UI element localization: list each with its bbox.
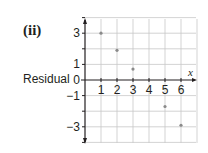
y-tick-label: 3: [73, 26, 80, 40]
data-point: [179, 124, 182, 127]
x-tick-label: 5: [162, 83, 169, 97]
x-axis-label: x: [187, 66, 193, 78]
x-tick-label: 4: [146, 83, 153, 97]
x-tick-label: 1: [98, 83, 105, 97]
data-point: [163, 105, 166, 108]
data-point: [131, 67, 134, 70]
x-tick-label: 2: [114, 83, 121, 97]
x-tick-label: 6: [178, 83, 185, 97]
y-tick-label: 0: [73, 73, 80, 87]
y-axis-arrow-down-icon: [83, 138, 87, 144]
data-point: [99, 32, 102, 35]
y-axis-arrow-up-icon: [83, 18, 87, 24]
x-axis-arrow-icon: [192, 78, 197, 82]
x-tick-label: 3: [130, 83, 137, 97]
y-tick-label: −1: [66, 89, 80, 103]
y-tick-label: −3: [66, 120, 80, 134]
data-point: [115, 49, 118, 52]
residual-plot: 123456x310−1−3: [0, 0, 208, 153]
y-tick-label: 1: [73, 57, 80, 71]
